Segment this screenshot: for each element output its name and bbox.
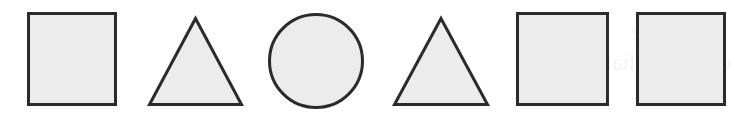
shape-1-square [29,14,116,105]
shape-2-triangle [150,19,242,105]
shape-group [29,14,725,108]
shape-row [0,0,735,125]
shape-6-square [638,14,725,105]
shape-3-circle [270,15,363,108]
shape-sequence-figure: ned value orm and charge e ba [0,0,735,125]
shape-4-triangle [395,19,488,105]
shape-5-square [518,14,608,105]
